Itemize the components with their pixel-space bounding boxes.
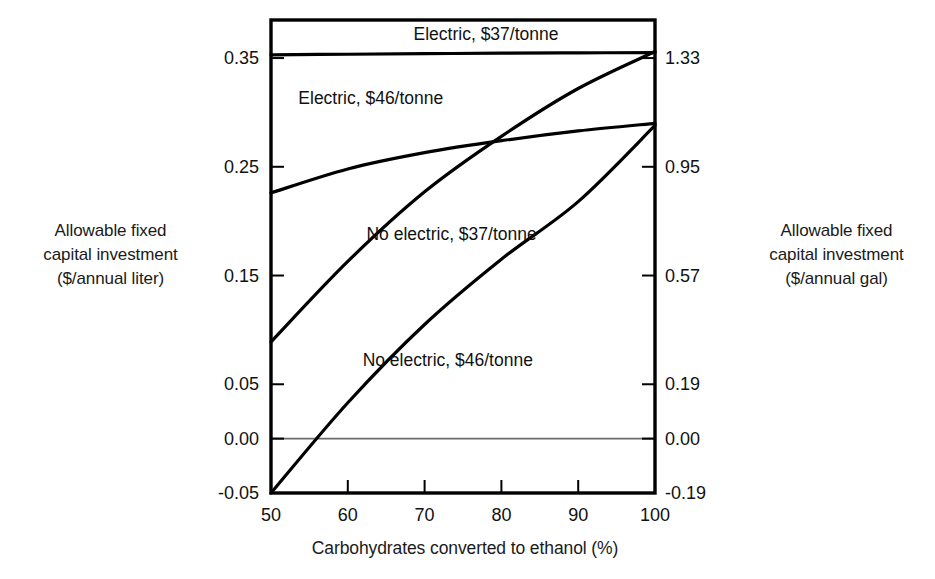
y-tick-right--0.19: -0.19 [665,484,737,502]
curve-label-1: Electric, $37/tonne [414,25,559,43]
x-tick-60: 60 [318,506,378,524]
curve-1 [271,53,655,55]
x-tick-90: 90 [548,506,608,524]
y-tick-left-0.05: 0.05 [187,375,259,393]
chart-figure: Allowable fixed capital investment ($/an… [0,0,935,579]
y-tick-right-0.95: 0.95 [665,158,737,176]
x-tick-80: 80 [471,506,531,524]
curve-label-4: No electric, $46/tonne [363,351,533,369]
y-tick-left--0.05: -0.05 [187,484,259,502]
axis-ticks [271,58,655,493]
y-tick-left-0.25: 0.25 [187,158,259,176]
y-tick-left-0.15: 0.15 [187,267,259,285]
y-tick-right-1.33: 1.33 [665,49,737,67]
data-curves [271,52,655,493]
y-tick-left-0.35: 0.35 [187,49,259,67]
x-tick-50: 50 [241,506,301,524]
plot-canvas [0,0,935,579]
y-tick-right-0.00: 0.00 [665,430,737,448]
y-tick-left-0.00: 0.00 [187,430,259,448]
y-tick-right-0.19: 0.19 [665,375,737,393]
x-tick-70: 70 [395,506,455,524]
x-tick-100: 100 [625,506,685,524]
curve-label-3: No electric, $37/tonne [366,225,536,243]
y-tick-right-0.57: 0.57 [665,267,737,285]
curve-label-2: Electric, $46/tonne [298,89,443,107]
